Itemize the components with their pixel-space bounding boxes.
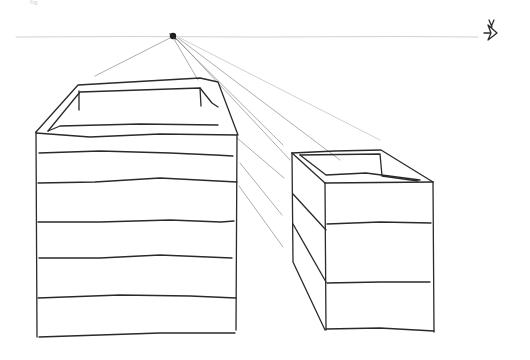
vanishing-point-icon [170, 33, 176, 39]
right-box [292, 150, 434, 332]
left-box [36, 78, 238, 337]
horizon-line [16, 37, 478, 38]
eye-icon [484, 20, 497, 40]
perspective-sketch [0, 0, 530, 360]
